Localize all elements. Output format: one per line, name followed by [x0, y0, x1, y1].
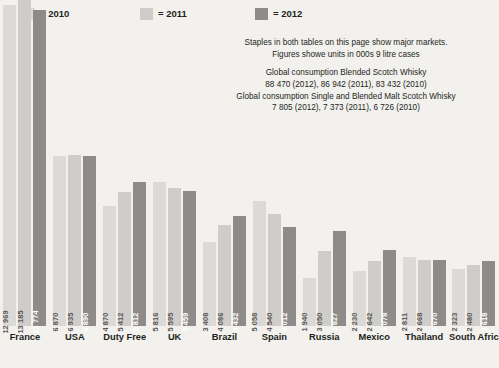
- x-axis-label-thailand: Thailand: [399, 332, 449, 342]
- bar-wrapper: 2 323: [452, 269, 465, 326]
- bar: 6 935: [68, 155, 81, 326]
- bar-wrapper: 2 618: [482, 261, 495, 326]
- x-axis-label-brazil: Brazil: [200, 332, 250, 342]
- bar-wrapper: 2 670: [433, 260, 446, 326]
- x-axis-label-south-africa: South Africa: [449, 332, 499, 342]
- bar-wrapper: 6 890: [83, 156, 96, 326]
- bar: 3 050: [318, 251, 331, 326]
- bar-wrapper: 2 811: [403, 257, 416, 327]
- bar: 4 870: [103, 206, 116, 326]
- bar: 2 642: [368, 261, 381, 326]
- bar-wrapper: 2 668: [418, 260, 431, 326]
- bar: 5 812: [133, 182, 146, 326]
- bar: 1 940: [303, 278, 316, 326]
- bar: 2 668: [418, 260, 431, 326]
- bar: 3 827: [333, 231, 346, 326]
- bar: 2 618: [482, 261, 495, 326]
- bar-wrapper: 5 816: [153, 182, 166, 326]
- bar: 2 480: [467, 265, 480, 326]
- bar: 5 412: [118, 192, 131, 326]
- bar: 5 058: [253, 201, 266, 326]
- bar-wrapper: 12 774: [33, 10, 46, 326]
- bar: 4 012: [283, 227, 296, 326]
- bar: 2 670: [433, 260, 446, 326]
- bar: 12 969: [3, 5, 16, 326]
- bar: 4 086: [218, 225, 231, 326]
- x-axis-label-mexico: Mexico: [349, 332, 399, 342]
- bar-group: 1 9403 0503 827: [299, 0, 349, 326]
- bar-group: 5 0584 5404 012: [249, 0, 299, 326]
- x-axis-label-france: France: [0, 332, 50, 342]
- bar: 5 459: [183, 191, 196, 326]
- bar-group: 6 8706 9356 890: [50, 0, 100, 326]
- bar-wrapper: 3 827: [333, 231, 346, 326]
- bar-wrapper: 3 078: [383, 250, 396, 326]
- bar-group: 2 2302 6423 078: [349, 0, 399, 326]
- bar-wrapper: 13 185: [18, 0, 31, 326]
- bar: 3 408: [203, 242, 216, 326]
- bar: 2 230: [353, 271, 366, 326]
- bar: 6 890: [83, 156, 96, 326]
- bar: 12 774: [33, 10, 46, 326]
- bar-wrapper: 5 459: [183, 191, 196, 326]
- bar: 2 811: [403, 257, 416, 327]
- bar-group: 12 96913 18512 774: [0, 0, 50, 326]
- x-axis-label-usa: USA: [50, 332, 100, 342]
- chart-x-axis: FranceUSADuty FreeUKBrazilSpainRussiaMex…: [0, 326, 499, 347]
- bar-wrapper: 1 940: [303, 278, 316, 326]
- bar-wrapper: 5 812: [133, 182, 146, 326]
- bar: 6 870: [53, 156, 66, 326]
- bar-wrapper: 6 935: [68, 155, 81, 326]
- bar: 5 816: [153, 182, 166, 326]
- bar-wrapper: 12 969: [3, 5, 16, 326]
- bar-wrapper: 2 230: [353, 271, 366, 326]
- bar-wrapper: 3 050: [318, 251, 331, 326]
- bar-wrapper: 2 642: [368, 261, 381, 326]
- chart-plot-area: 12 96913 18512 7746 8706 9356 8904 8705 …: [0, 0, 499, 326]
- bar-wrapper: 4 432: [233, 216, 246, 326]
- x-axis-label-spain: Spain: [249, 332, 299, 342]
- x-axis-label-russia: Russia: [299, 332, 349, 342]
- bar-wrapper: 5 412: [118, 192, 131, 326]
- bar: 5 595: [168, 188, 181, 326]
- bar: 2 323: [452, 269, 465, 326]
- bar-wrapper: 5 595: [168, 188, 181, 326]
- bar-wrapper: 4 870: [103, 206, 116, 326]
- bar-group: 5 8165 5955 459: [150, 0, 200, 326]
- bar-group: 3 4084 0864 432: [200, 0, 250, 326]
- bar-wrapper: 4 086: [218, 225, 231, 326]
- bar: 4 540: [268, 214, 281, 326]
- bar-wrapper: 5 058: [253, 201, 266, 326]
- bar: 3 078: [383, 250, 396, 326]
- bar: 4 432: [233, 216, 246, 326]
- bar-wrapper: 2 480: [467, 265, 480, 326]
- bar-wrapper: 6 870: [53, 156, 66, 326]
- x-axis-label-duty-free: Duty Free: [100, 332, 150, 342]
- bar-chart: 12 96913 18512 7746 8706 9356 8904 8705 …: [0, 0, 499, 347]
- bar-group: 2 8112 6682 670: [399, 0, 449, 326]
- bar-wrapper: 4 012: [283, 227, 296, 326]
- bar-group: 2 3232 4802 618: [449, 0, 499, 326]
- bar-wrapper: 4 540: [268, 214, 281, 326]
- bar-group: 4 8705 4125 812: [100, 0, 150, 326]
- bar: 13 185: [18, 0, 31, 326]
- bar-wrapper: 3 408: [203, 242, 216, 326]
- x-axis-label-uk: UK: [150, 332, 200, 342]
